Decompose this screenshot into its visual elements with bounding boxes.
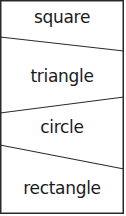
shape-names-card: square triangle circle rectangle [0,0,124,214]
label-square: square [0,7,124,27]
label-rectangle: rectangle [0,178,124,198]
label-triangle: triangle [0,66,124,86]
label-circle: circle [0,117,124,137]
